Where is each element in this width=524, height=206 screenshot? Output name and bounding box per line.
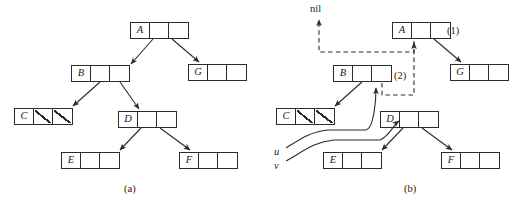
node-E-key: E (324, 153, 343, 168)
node-C: C (276, 108, 335, 125)
node-G-key: G (189, 65, 208, 80)
node-C-right-nil (53, 109, 72, 124)
node-A-key: A (393, 23, 412, 38)
node-C-key: C (277, 109, 296, 124)
node-B-right-pointer (372, 66, 391, 81)
node-E-left-pointer (343, 153, 362, 168)
node-D-key: D (381, 112, 400, 127)
label-pointer-v: v (274, 161, 279, 172)
node-B: B (71, 65, 130, 82)
node-G: G (188, 64, 247, 81)
node-G-right-pointer (227, 65, 246, 80)
node-E-right-pointer (100, 153, 119, 168)
node-B-key: B (72, 66, 91, 81)
node-D-left-pointer (400, 112, 419, 127)
node-E-right-pointer (362, 153, 381, 168)
node-E: E (323, 152, 382, 169)
node-A: A (130, 22, 189, 39)
node-F-key: F (180, 153, 199, 168)
node-C-right-nil (315, 109, 334, 124)
node-E-left-pointer (81, 153, 100, 168)
node-F-left-pointer (461, 153, 480, 168)
node-C-left-nil (296, 109, 315, 124)
node-A-left-pointer (150, 23, 169, 38)
node-D-right-pointer (419, 112, 438, 127)
node-G-left-pointer (470, 65, 489, 80)
node-A: A (392, 22, 451, 39)
node-C: C (14, 108, 73, 125)
label-step-1: (1) (447, 26, 459, 37)
node-C-left-nil (34, 109, 53, 124)
node-G-key: G (451, 65, 470, 80)
node-C-key: C (15, 109, 34, 124)
panel-a: A B G C D E F (0, 0, 262, 206)
caption-a: (a) (124, 183, 136, 194)
caption-b: (b) (404, 183, 416, 194)
node-A-right-pointer (169, 23, 188, 38)
node-A-key: A (131, 23, 150, 38)
node-G-left-pointer (208, 65, 227, 80)
node-B-left-pointer (353, 66, 372, 81)
node-A-left-pointer (412, 23, 431, 38)
node-F: F (179, 152, 238, 169)
label-step-2: (2) (394, 71, 406, 82)
label-pointer-u: u (274, 147, 279, 158)
node-F-key: F (442, 153, 461, 168)
node-D: D (118, 111, 177, 128)
node-F-left-pointer (199, 153, 218, 168)
panel-b: A B G C D E F (262, 0, 524, 206)
node-E-key: E (62, 153, 81, 168)
node-F-right-pointer (218, 153, 237, 168)
node-D: D (380, 111, 439, 128)
label-nil: nil (310, 4, 321, 15)
node-B-right-pointer (110, 66, 129, 81)
node-D-right-pointer (157, 112, 176, 127)
node-E: E (61, 152, 120, 169)
node-B-left-pointer (91, 66, 110, 81)
node-B: B (333, 65, 392, 82)
node-G: G (450, 64, 509, 81)
node-D-left-pointer (138, 112, 157, 127)
node-F: F (441, 152, 500, 169)
figure-binary-tree-linked-representation: A B G C D E F (0, 0, 524, 206)
node-D-key: D (119, 112, 138, 127)
node-B-key: B (334, 66, 353, 81)
node-G-right-pointer (489, 65, 508, 80)
node-F-right-pointer (480, 153, 499, 168)
